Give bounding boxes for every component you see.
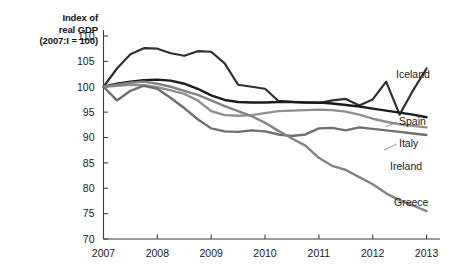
series-label-italy: Italy	[399, 137, 419, 149]
x-tick-label: 2011	[308, 247, 331, 259]
series-line-iceland	[104, 48, 427, 114]
x-tick-label: 2013	[415, 247, 439, 259]
series-leader-italy	[384, 144, 397, 150]
series-label-iceland: Iceland	[396, 68, 430, 80]
series-line-greece	[104, 82, 427, 211]
chart-series-labels: IcelandSpainItalyIrelandGreece	[390, 68, 430, 208]
x-axis-tick-labels: 2007200820092010201120122013	[92, 247, 439, 259]
chart-series-leader-lines	[384, 122, 397, 150]
x-tick-label: 2008	[146, 247, 170, 259]
y-tick-label: 105	[77, 55, 95, 67]
y-axis-tick-marks	[104, 36, 109, 239]
y-axis-tick-labels: 707580859095100105110	[77, 30, 95, 245]
y-tick-label: 80	[83, 182, 95, 194]
series-label-greece: Greece	[394, 196, 429, 208]
y-tick-label: 75	[83, 207, 95, 219]
y-tick-label: 85	[83, 157, 95, 169]
y-tick-label: 70	[83, 233, 95, 245]
chart-series-lines	[104, 48, 427, 211]
axis-title-line-1: Index of	[10, 12, 98, 24]
chart-figure: Index of real GDP (2007:I = 100) 7075808…	[0, 0, 456, 279]
x-tick-label: 2012	[361, 247, 385, 259]
y-tick-label: 100	[77, 81, 95, 93]
y-tick-label: 90	[83, 131, 95, 143]
chart-axis-title: Index of real GDP (2007:I = 100)	[10, 12, 98, 47]
axis-title-subtitle: (2007:I = 100)	[10, 35, 98, 47]
series-label-spain: Spain	[399, 115, 426, 127]
x-tick-label: 2009	[200, 247, 224, 259]
axis-title-line-2: real GDP	[10, 24, 98, 36]
y-tick-label: 95	[83, 106, 95, 118]
x-axis-tick-marks	[104, 235, 427, 240]
x-tick-label: 2010	[253, 247, 277, 259]
series-label-ireland: Ireland	[390, 160, 422, 172]
x-tick-label: 2007	[92, 247, 116, 259]
